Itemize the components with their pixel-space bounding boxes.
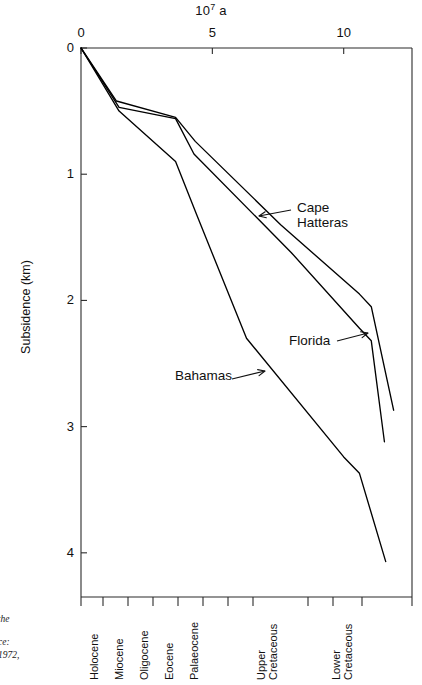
plot-canvas	[0, 0, 422, 685]
series-line-bahamas	[81, 48, 386, 562]
series-line-cape-hatteras	[81, 48, 394, 410]
arrow-bahamas	[232, 370, 265, 379]
chart-figure: 107 a Subsidence (km) 0510 01234 Holocen…	[0, 0, 422, 685]
arrow-cape-hatteras	[259, 210, 291, 218]
series-line-florida	[81, 48, 384, 442]
